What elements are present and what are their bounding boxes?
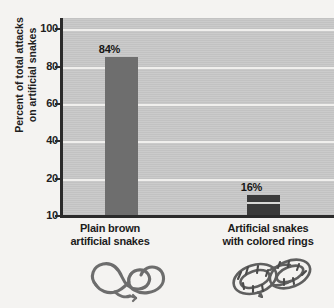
y-tick-mark-20 (55, 178, 61, 180)
bar-value-label-colored-rings: 16% (225, 181, 278, 193)
gridline-100 (62, 29, 334, 31)
y-tick-mark-60 (55, 103, 61, 105)
gridline-20 (62, 179, 334, 181)
gridline-80 (62, 67, 334, 69)
y-tick-mark-10 (55, 215, 61, 217)
bar-chart-figure: 100 80 60 40 20 10 Percent of total atta… (0, 0, 334, 308)
plain-brown-snake-illustration (86, 252, 174, 304)
y-axis-title: Percent of total attacks on artificial s… (13, 13, 39, 137)
ringed-snakes-illustration (228, 252, 318, 304)
y-tick-label-20: 20 (22, 173, 58, 184)
bar-value-label-plain-brown: 84% (83, 43, 136, 55)
bar-highlight-stripe (247, 202, 280, 204)
y-tick-mark-100 (55, 28, 61, 30)
category-label-colored-rings: Artificial snakes with colored rings (209, 222, 327, 248)
y-tick-mark-80 (55, 66, 61, 68)
y-tick-label-10: 10 (22, 210, 58, 221)
y-tick-mark-40 (55, 140, 61, 142)
gridline-60 (62, 104, 334, 106)
x-axis-spine (60, 215, 334, 218)
bar-colored-rings[interactable] (247, 195, 280, 216)
gridline-40 (62, 141, 334, 143)
bar-plain-brown[interactable] (105, 57, 138, 216)
category-label-plain-brown: Plain brown artificial snakes (62, 222, 158, 248)
y-axis-spine (60, 18, 63, 218)
